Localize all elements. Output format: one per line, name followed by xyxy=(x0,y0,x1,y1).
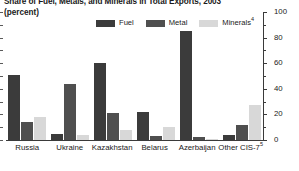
x-axis-category-labels: RussiaUkraineKazakhstanBelarusAzerbaijan… xyxy=(6,143,263,152)
x-axis-label-azerbaijan: Azerbaijan xyxy=(176,143,218,152)
y-tick-mark xyxy=(264,63,267,64)
x-axis-label-kazakhstan: Kazakhstan xyxy=(91,143,133,152)
bar-minerals-other-cis-7 xyxy=(249,105,261,140)
y-tick-mark xyxy=(264,89,267,90)
chart-title-text: Share of Fuel, Metals, and Minerals in T… xyxy=(4,0,221,6)
x-axis-label-russia: Russia xyxy=(6,143,48,152)
x-axis-label-text: Kazakhstan xyxy=(92,143,133,152)
bar-metal-belarus xyxy=(150,136,162,140)
y-tick-mark-minor xyxy=(264,102,266,103)
bar-fuel-kazakhstan xyxy=(94,63,106,140)
x-axis-label-footnote-marker: 5 xyxy=(260,141,263,147)
x-axis-label-text: Belarus xyxy=(141,143,167,152)
left-stub-tick xyxy=(0,89,3,90)
left-stub-tick xyxy=(0,140,3,141)
bar-group xyxy=(220,12,263,140)
chart-container: Share of Fuel, Metals, and Minerals in T… xyxy=(0,0,299,171)
bar-metal-azerbaijan xyxy=(193,137,205,140)
y-tick-label: 0 xyxy=(274,136,278,144)
bar-metal-other-cis-7 xyxy=(236,125,248,140)
bar-minerals-azerbaijan xyxy=(206,139,218,140)
y-tick-mark-minor xyxy=(264,25,266,26)
bar-group xyxy=(92,12,135,140)
bar-metal-ukraine xyxy=(64,84,76,140)
bar-minerals-belarus xyxy=(163,127,175,140)
bar-fuel-russia xyxy=(8,75,20,140)
x-axis-label-belarus: Belarus xyxy=(133,143,175,152)
left-stub-tick xyxy=(0,127,3,128)
chart-title: Share of Fuel, Metals, and Minerals in T… xyxy=(4,0,254,7)
x-axis-line xyxy=(6,140,264,141)
bar-minerals-ukraine xyxy=(77,135,89,140)
y-tick-mark-minor xyxy=(264,50,266,51)
x-axis-label-text: Russia xyxy=(15,143,39,152)
y-tick-label: 60 xyxy=(274,59,283,67)
left-stub-tick xyxy=(0,50,3,51)
bar-group xyxy=(134,12,177,140)
bar-fuel-ukraine xyxy=(51,134,63,140)
bar-group xyxy=(49,12,92,140)
left-stub-tick xyxy=(0,25,3,26)
y-tick-mark xyxy=(264,38,267,39)
chart-title-footnote-marker: 3 xyxy=(221,0,224,1)
bar-fuel-belarus xyxy=(137,112,149,140)
bar-metal-russia xyxy=(21,122,33,140)
y-tick-mark-minor xyxy=(264,127,266,128)
y-tick-mark xyxy=(264,140,267,141)
left-stub-tick xyxy=(0,12,3,13)
plot-area: 020406080100 xyxy=(6,12,264,141)
y-tick-mark xyxy=(264,12,267,13)
left-stub-tick xyxy=(0,76,3,77)
x-axis-label-other-cis-7: Other CIS-75 xyxy=(218,143,263,152)
y-tick-mark xyxy=(264,114,267,115)
bar-fuel-azerbaijan xyxy=(180,31,192,140)
bar-minerals-kazakhstan xyxy=(120,130,132,140)
left-stub-tick xyxy=(0,102,3,103)
y-tick-label: 80 xyxy=(274,34,283,42)
x-axis-label-text: Azerbaijan xyxy=(179,143,216,152)
left-stub-tick xyxy=(0,38,3,39)
bar-group xyxy=(6,12,49,140)
x-axis-label-text: Ukraine xyxy=(56,143,83,152)
left-stub-tick xyxy=(0,63,3,64)
x-axis-label-ukraine: Ukraine xyxy=(48,143,90,152)
y-tick-label: 40 xyxy=(274,85,283,93)
left-stub-tick xyxy=(0,114,3,115)
bar-minerals-russia xyxy=(34,117,46,140)
y-tick-label: 100 xyxy=(274,8,287,16)
bar-fuel-other-cis-7 xyxy=(223,135,235,140)
y-tick-label: 20 xyxy=(274,110,283,118)
bar-metal-kazakhstan xyxy=(107,113,119,140)
y-tick-mark-minor xyxy=(264,76,266,77)
bar-group xyxy=(177,12,220,140)
bar-groups xyxy=(6,12,263,140)
plot-inner xyxy=(6,12,264,141)
x-axis-label-text: Other CIS-7 xyxy=(218,143,260,152)
